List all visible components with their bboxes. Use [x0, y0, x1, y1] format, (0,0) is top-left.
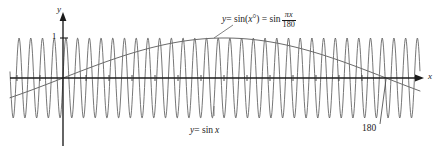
- formula-eq2: ) = sin: [256, 14, 280, 24]
- bottom-formula-eq: = sin: [194, 125, 213, 135]
- x-axis-label: x: [428, 72, 432, 81]
- formula-fraction-numerator: πx: [282, 11, 296, 20]
- label-sin-degrees-formula: y= sin(x°) = sin πx 180: [222, 11, 296, 29]
- formula-eq1: = sin(: [226, 14, 248, 24]
- label-180: 180: [362, 124, 376, 134]
- y-axis-tick-label-one: 1: [52, 32, 56, 41]
- formula-fraction: πx 180: [282, 11, 296, 29]
- formula-fraction-numerator-x: x: [289, 10, 293, 19]
- y-axis-label: y: [57, 5, 61, 14]
- bottom-formula-x: x: [215, 125, 219, 135]
- label-sin-x-formula: y= sinx: [190, 126, 219, 136]
- formula-fraction-denominator: 180: [282, 20, 296, 30]
